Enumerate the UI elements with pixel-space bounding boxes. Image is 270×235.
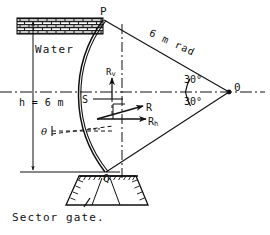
wall-hatch-block	[17, 18, 103, 34]
label-angle-upper: 30°	[184, 75, 202, 85]
label-force-rv: Rv	[106, 68, 116, 78]
label-depth: h = 6 m	[19, 98, 64, 108]
pivot-point-o	[227, 90, 232, 95]
label-force-r: R	[146, 103, 152, 113]
label-water: Water	[35, 44, 74, 55]
label-angle-theta: θ	[41, 127, 47, 137]
rv-sub: v	[111, 70, 115, 78]
label-point-s: S	[82, 95, 88, 105]
label-point-p: P	[100, 6, 107, 17]
radius-arm-upper	[104, 20, 229, 92]
label-force-rh: Rh	[148, 117, 158, 128]
label-angle-lower: 30°	[184, 97, 202, 107]
figure-caption: Sector gate.	[12, 212, 105, 223]
sector-gate-diagram	[0, 0, 270, 235]
label-point-q: Q	[103, 173, 110, 184]
rh-sub: h	[154, 120, 158, 128]
label-point-o: 0	[234, 82, 241, 93]
force-r-arrow	[97, 106, 143, 119]
